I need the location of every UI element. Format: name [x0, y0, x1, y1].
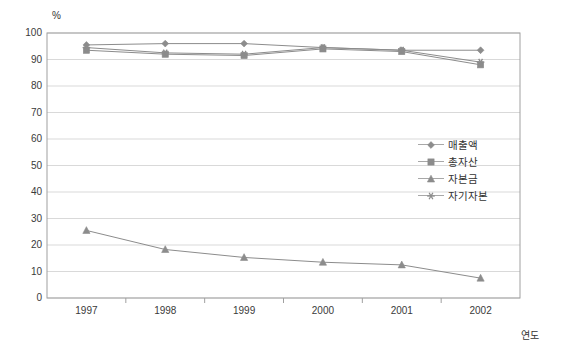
y-tick-100: 100 — [16, 27, 42, 38]
y-tick-70: 70 — [16, 107, 42, 118]
x-tick-2001: 2001 — [372, 305, 432, 316]
y-tick-30: 30 — [16, 213, 42, 224]
legend-marker-triangle-icon — [418, 172, 444, 186]
legend-marker-star-icon — [418, 189, 444, 203]
series-line-자본금 — [86, 230, 480, 278]
legend-glyph-diamond — [428, 141, 435, 148]
y-tick-80: 80 — [16, 80, 42, 91]
x-tick-2000: 2000 — [293, 305, 353, 316]
y-tick-40: 40 — [16, 186, 42, 197]
y-tick-0: 0 — [16, 292, 42, 303]
y-tick-50: 50 — [16, 160, 42, 171]
series-총자산 — [83, 46, 483, 68]
x-tick-1997: 1997 — [56, 305, 116, 316]
x-axis-title: 연도 — [521, 327, 539, 342]
legend-symbol-svg — [418, 155, 444, 169]
legend-glyph-square — [428, 158, 434, 164]
legend-symbol-svg — [418, 189, 444, 203]
datapoint-자본금-1997 — [83, 227, 90, 234]
x-tick-1998: 1998 — [135, 305, 195, 316]
legend-label-총자산: 총자산 — [444, 154, 478, 169]
y-tick-20: 20 — [16, 239, 42, 250]
series-자본금 — [83, 227, 484, 282]
y-tick-60: 60 — [16, 133, 42, 144]
datapoint-매출액-1998 — [162, 40, 169, 47]
line-chart: % 연도 1009080706050403020100 199719981999… — [0, 0, 569, 350]
legend-item-매출액[interactable]: 매출액 — [418, 136, 514, 153]
chart-legend: 매출액총자산자본금자기자본 — [418, 136, 514, 206]
legend-glyph-triangle — [427, 175, 434, 182]
datapoint-매출액-1999 — [241, 40, 248, 47]
y-tick-90: 90 — [16, 54, 42, 65]
legend-symbol-svg — [418, 172, 444, 186]
legend-marker-square-icon — [418, 155, 444, 169]
legend-label-매출액: 매출액 — [444, 137, 478, 152]
legend-glyph-star — [427, 192, 435, 199]
y-axis-unit-label: % — [52, 10, 61, 21]
y-tick-10: 10 — [16, 266, 42, 277]
legend-symbol-svg — [418, 138, 444, 152]
legend-label-자본금: 자본금 — [444, 171, 478, 186]
legend-marker-diamond-icon — [418, 138, 444, 152]
legend-label-자기자본: 자기자본 — [444, 188, 488, 203]
x-tick-2002: 2002 — [451, 305, 511, 316]
legend-item-총자산[interactable]: 총자산 — [418, 153, 514, 170]
series-line-매출액 — [86, 44, 480, 51]
x-tick-1999: 1999 — [214, 305, 274, 316]
legend-item-자본금[interactable]: 자본금 — [418, 170, 514, 187]
legend-item-자기자본[interactable]: 자기자본 — [418, 187, 514, 204]
datapoint-매출액-2002 — [477, 47, 484, 54]
